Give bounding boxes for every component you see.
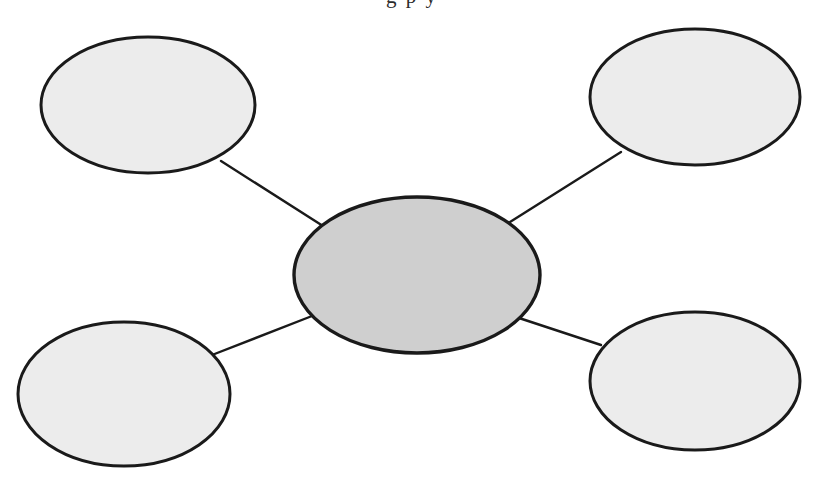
diagram-canvas: g p y <box>0 0 824 480</box>
connector-center-to-top-left <box>221 161 323 226</box>
ellipse-center[interactable] <box>294 197 540 353</box>
ellipse-bottom-right[interactable] <box>590 312 800 450</box>
outer-node-bottom-right[interactable] <box>590 312 800 450</box>
connector-center-to-bottom-left <box>212 316 312 355</box>
concept-map-diagram <box>0 0 824 480</box>
outer-node-top-right[interactable] <box>590 29 800 165</box>
connector-center-to-bottom-right <box>519 318 601 345</box>
ellipse-bottom-left[interactable] <box>18 322 230 466</box>
ellipse-top-left[interactable] <box>41 37 255 173</box>
outer-node-bottom-left[interactable] <box>18 322 230 466</box>
center-node[interactable] <box>294 197 540 353</box>
outer-node-top-left[interactable] <box>41 37 255 173</box>
connector-center-to-top-right <box>510 152 621 222</box>
ellipse-top-right[interactable] <box>590 29 800 165</box>
